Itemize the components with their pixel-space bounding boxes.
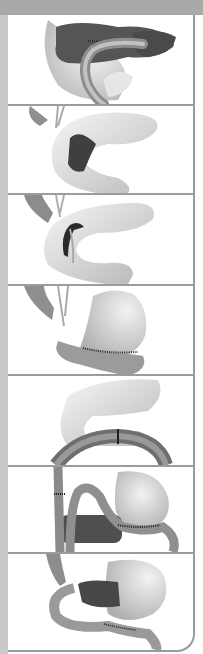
left-strip xyxy=(0,15,8,654)
top-banner xyxy=(0,0,203,15)
bottom-border xyxy=(8,650,178,652)
panel-4-gastrojejunostomy xyxy=(8,286,193,374)
right-border xyxy=(193,15,195,629)
panel-6-roux-en-y xyxy=(8,467,193,552)
panel-2-gastric-resection xyxy=(8,106,193,193)
figure-frame xyxy=(0,0,203,654)
panel-7-duodenal-switch xyxy=(8,554,193,650)
gallbladder-shape xyxy=(24,286,54,320)
stomach-shape xyxy=(80,290,146,358)
panel-1-pancreas-anastomosis xyxy=(8,15,193,104)
stomach-shape xyxy=(115,471,169,529)
gallbladder-shape xyxy=(24,195,53,223)
duodenal-segment xyxy=(78,580,120,607)
roux-limb xyxy=(58,467,60,552)
gallbladder-shape xyxy=(29,106,48,126)
panel-3-sleeve xyxy=(8,195,193,284)
stomach-shape xyxy=(52,113,158,193)
gallbladder-shape xyxy=(46,554,66,586)
panel-5-colon xyxy=(8,376,193,465)
